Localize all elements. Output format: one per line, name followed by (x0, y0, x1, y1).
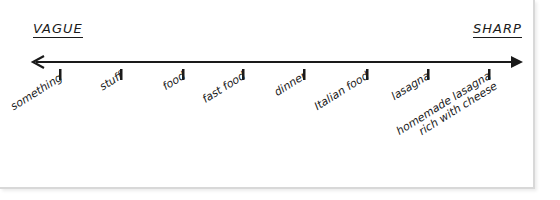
diagram-card: VAGUE SHARP something stuff food fast fo… (0, 0, 535, 189)
right-arrowhead-icon (511, 56, 523, 68)
